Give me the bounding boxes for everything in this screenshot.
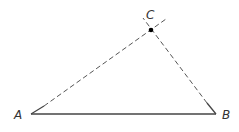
triangle-diagram: A B C <box>0 0 239 132</box>
diagram-svg: A B C <box>0 0 239 132</box>
segment-bc-solid-start <box>207 103 216 114</box>
point-c-dot <box>149 28 154 33</box>
segment-ac-dashed <box>44 19 166 106</box>
label-b: B <box>222 108 230 122</box>
label-a: A <box>13 108 22 122</box>
label-c: C <box>146 8 155 22</box>
segment-ac-solid-start <box>31 106 44 114</box>
